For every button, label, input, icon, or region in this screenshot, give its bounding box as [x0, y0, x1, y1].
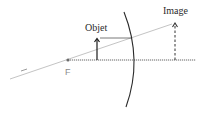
image-label: Image [163, 6, 188, 16]
object-label: Objet [85, 23, 107, 33]
ray-direction-mark [21, 69, 27, 71]
optics-diagram [0, 0, 199, 113]
focal-point-dot [66, 58, 69, 61]
focal-point-label: F [65, 67, 71, 77]
